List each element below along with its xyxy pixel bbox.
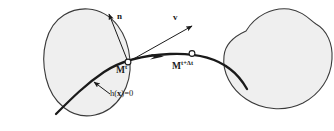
point-label-next-sup: t+Δt <box>181 59 193 66</box>
point-label-next: Mt+Δt <box>172 62 193 72</box>
velocity-vector-label: v <box>173 13 178 22</box>
right-rigid-body-outline <box>224 9 332 109</box>
left-rigid-body <box>44 9 130 116</box>
normal-vector-label: n <box>117 12 122 21</box>
constraint-suffix: )=0 <box>121 88 133 98</box>
diagram-canvas <box>0 0 334 131</box>
point-label-next-base: M <box>172 61 181 71</box>
figure-container: n v Mt Mt+Δt h(x)=0 <box>0 0 334 131</box>
point-label-current: Mt <box>116 66 127 76</box>
point-label-current-base: M <box>116 65 125 75</box>
point-label-current-sup: t <box>125 63 127 70</box>
constraint-equation-label: h(x)=0 <box>110 89 133 98</box>
right-rigid-body <box>224 9 332 109</box>
left-rigid-body-outline <box>44 9 130 116</box>
point-marker-next <box>189 51 195 57</box>
